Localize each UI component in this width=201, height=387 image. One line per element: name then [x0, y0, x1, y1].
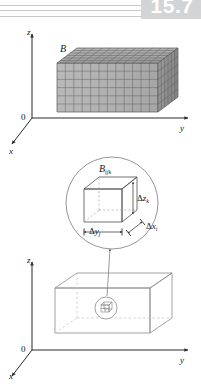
delta-z-subscript: k	[146, 198, 149, 204]
delta-z-label: Δzk	[137, 194, 149, 204]
x-axis-label-bottom: x	[9, 372, 13, 381]
subbox-label-Bijk: Bijk	[99, 164, 111, 175]
z-axis-label-bottom: z	[27, 256, 31, 265]
figure-magnified-subbox	[66, 157, 158, 296]
subbox-callout-circle	[95, 297, 117, 319]
figure-page: 15.7	[0, 0, 201, 387]
figure-partitioned-box	[12, 34, 188, 144]
wirebox-top-face	[55, 273, 172, 288]
y-axis-label-top: y	[180, 124, 184, 133]
origin-label-bottom: 0	[21, 345, 26, 354]
figure-artwork	[0, 0, 201, 387]
origin-label-top: 0	[21, 113, 26, 122]
magnifier-leader-line	[107, 249, 110, 296]
x-axis-label-top: x	[9, 147, 13, 156]
z-axis-label-top: z	[27, 28, 31, 37]
delta-x-label: Δxi	[146, 222, 157, 232]
figure-wireframe-box	[12, 262, 188, 376]
delta-y-subscript: j	[99, 231, 101, 237]
wirebox-right-face	[150, 273, 172, 333]
delta-y-label: Δyj	[89, 227, 100, 237]
delta-x-subscript: i	[156, 226, 158, 232]
subbox-label-sub: ijk	[105, 169, 111, 175]
box-label-B: B	[60, 44, 66, 54]
y-axis-label-bottom: y	[180, 356, 184, 365]
